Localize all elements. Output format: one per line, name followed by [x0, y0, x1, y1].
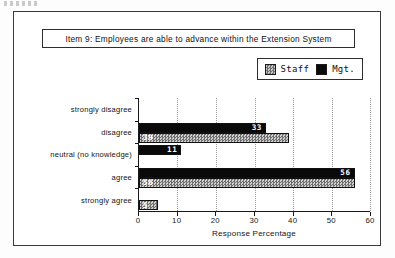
bar-value-label: 56	[140, 179, 156, 187]
y-tick-strongly-disagree	[135, 98, 139, 99]
bar-row-strongly-agree: 5	[139, 188, 370, 211]
legend-label-staff: Staff	[281, 64, 310, 74]
bar-mgt-agree: 56	[139, 168, 355, 178]
y-tick-disagree	[135, 121, 139, 122]
bar-value-label: 56	[337, 169, 353, 177]
y-tick-strongly-agree	[135, 188, 139, 189]
y-axis-labels: strongly disagree disagree neutral (no k…	[32, 98, 138, 212]
legend-item-staff: Staff	[265, 64, 310, 75]
y-tick-neutral-no-knowledge	[135, 143, 139, 144]
bar-staff-agree: 56	[139, 178, 355, 188]
bar-row-agree: 5656	[139, 166, 370, 189]
staff-hatched-swatch	[265, 64, 276, 75]
bar-row-neutral-no-knowledge: 11	[139, 143, 370, 166]
chart-axes: 33391156565	[138, 98, 370, 212]
x-tick-label-20: 20	[211, 216, 220, 225]
x-tick-label-0: 0	[136, 216, 141, 225]
y-label-strongly-disagree: strongly disagree	[32, 98, 138, 121]
y-label-agree: agree	[32, 166, 138, 189]
mgt-solid-swatch	[316, 64, 327, 75]
bar-staff-disagree: 39	[139, 133, 289, 143]
y-label-neutral: neutral (no knowledge)	[32, 144, 138, 167]
page-title: Item 9: Employees are able to advance wi…	[65, 34, 331, 44]
bar-row-strongly-disagree	[139, 98, 370, 121]
y-label-disagree: disagree	[32, 121, 138, 144]
x-tick-label-10: 10	[172, 216, 181, 225]
x-tick-label-50: 50	[327, 216, 336, 225]
plot-area: strongly disagree disagree neutral (no k…	[14, 98, 380, 248]
bar-rows: 33391156565	[139, 98, 370, 211]
y-tick-agree	[135, 166, 139, 167]
x-axis-ticks: 0102030405060	[138, 212, 370, 228]
grid-line-60	[370, 98, 371, 211]
legend-item-mgt: Mgt.	[316, 64, 355, 75]
bar-value-label: 33	[249, 124, 265, 132]
y-label-strongly-agree: strongly agree	[32, 189, 138, 212]
bar-mgt-neutral-no-knowledge: 11	[139, 145, 181, 155]
chart-frame: Item 9: Employees are able to advance wi…	[13, 11, 381, 246]
scan-artifact	[4, 1, 38, 6]
bar-value-label: 39	[140, 134, 156, 142]
bar-row-disagree: 3339	[139, 121, 370, 144]
bar-value-label: 11	[164, 146, 180, 154]
bar-value-label: 5	[140, 202, 151, 210]
x-axis-title: Response Percentage	[138, 229, 370, 238]
x-tick-label-60: 60	[365, 216, 374, 225]
legend-label-mgt: Mgt.	[332, 64, 355, 74]
chart-title-box: Item 9: Employees are able to advance wi…	[42, 29, 355, 48]
chart-page: Item 9: Employees are able to advance wi…	[0, 0, 395, 258]
chart-legend: Staff Mgt.	[257, 58, 363, 80]
bar-staff-strongly-agree: 5	[139, 200, 158, 210]
x-tick-label-40: 40	[288, 216, 297, 225]
bar-mgt-disagree: 33	[139, 123, 266, 133]
x-tick-label-30: 30	[249, 216, 258, 225]
